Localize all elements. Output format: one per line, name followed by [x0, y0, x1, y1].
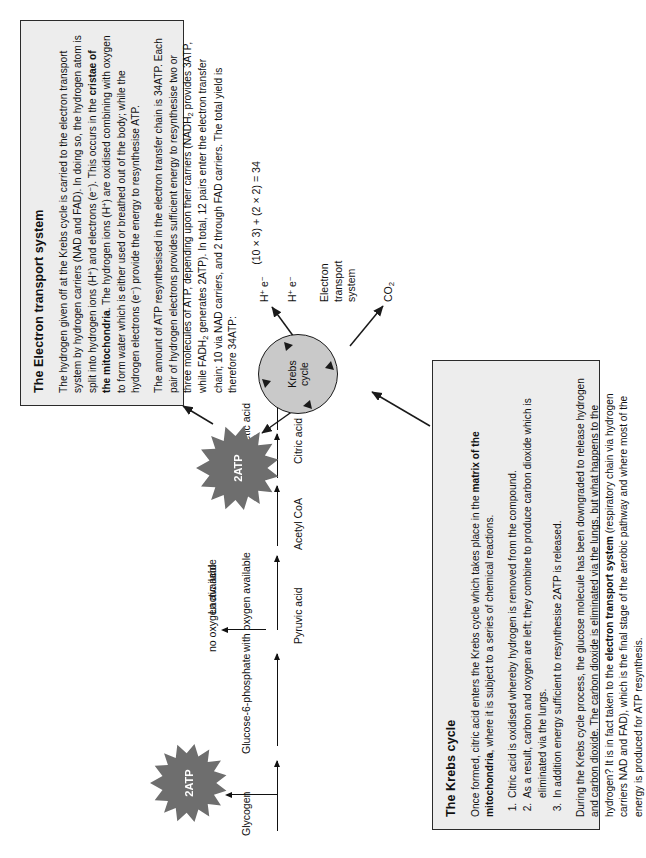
co2-text: CO — [382, 286, 394, 302]
ets-label-line-3: system — [345, 269, 357, 302]
arrow-g6p-to-atp — [232, 794, 277, 795]
ets-box-para2: The amount of ATP resynthesised in the e… — [152, 33, 241, 393]
krebs-cycle-node: Krebs cycle — [258, 334, 338, 414]
ets-p1-c: ) and electrons (e — [87, 192, 98, 271]
h-plus-text-2: H — [286, 294, 298, 302]
krebs-cycle-info-box: The Krebs cycle Once formed, citric acid… — [432, 360, 600, 830]
krebs-box-steps: Citric acid is oxidised whereby hydrogen… — [506, 373, 566, 817]
krebs-intro-c: , where it is subject to a series of che… — [484, 515, 495, 753]
ets-p2-sub1: 2 — [186, 112, 195, 116]
atp-star-glycolysis-label: 2ATP — [183, 769, 195, 796]
ets-p2-sub2: 2 — [201, 336, 210, 340]
ets-label-line-1: Electron — [318, 263, 330, 302]
co2-sub: 2 — [387, 282, 396, 286]
h-plus-sup-2: + — [286, 290, 295, 295]
krebs-intro-a: Once formed, citric acid enters the Kreb… — [470, 493, 481, 817]
label-citric-acid: Citric acid — [292, 418, 305, 464]
label-hydrogen-ions-electrons-2: H+ e− — [286, 277, 299, 302]
arrow-acetylcoa-to-oxaloacetic — [277, 486, 278, 546]
label-glycogen: Glycogen — [240, 792, 253, 836]
krebs-step-3: In addition energy sufficient to resynth… — [551, 373, 565, 800]
krebs-step-1: Citric acid is oxidised whereby hydrogen… — [506, 373, 520, 800]
krebs-box-title: The Krebs cycle — [443, 373, 461, 817]
ets-p1-sup4: − — [129, 290, 138, 294]
ets-p1-sup3: + — [100, 203, 109, 207]
ets-box-para1: The hydrogen given off at the Krebs cycl… — [57, 33, 144, 393]
krebs-para2-bold: electron transport system — [604, 536, 615, 661]
label-lactic-acid: Lactic acid — [206, 564, 219, 614]
arrow-oxaloacetic-to-citric — [277, 434, 278, 478]
label-carbon-dioxide: CO2 — [382, 282, 396, 302]
ets-p1-e: ). This occurs in the — [87, 96, 98, 188]
ets-p1-sup2: − — [86, 187, 95, 191]
ets-label-line-2: transport — [332, 261, 344, 302]
ets-p1-g: . The hydrogen ions (H — [102, 207, 113, 310]
atp-star-krebs-label: 2ATP — [232, 454, 244, 481]
atp-star-glycolysis: 2ATP — [150, 744, 228, 822]
ets-p1-k: ) provide the energy to resynthesise ATP… — [131, 105, 142, 290]
krebs-line-1: Krebs — [286, 360, 298, 387]
krebs-box-intro: Once formed, citric acid enters the Kreb… — [469, 373, 498, 817]
label-glucose-6-phosphate: Glucose-6-phosphate — [240, 654, 253, 754]
arrow-glycogen-to-g6p — [277, 761, 278, 831]
label-pyruvic-acid: Pyruvic acid — [292, 587, 305, 644]
e-minus-sup-2: − — [286, 277, 295, 282]
electron-transport-system-info-box: The Electron transport system The hydrog… — [20, 20, 184, 406]
ets-box-equation: (10 × 3) + (2 × 2) = 34 — [249, 33, 264, 393]
atp-star-krebs: 2ATP — [196, 426, 280, 510]
label-electron-transport-system: Electron transport system — [318, 261, 359, 302]
ets-p1-sup1: + — [86, 271, 95, 275]
krebs-cycle-node-label: Krebs cycle — [286, 360, 310, 387]
arrow-pyruvic-to-acetylcoa — [277, 556, 278, 630]
krebs-box-para2: During the Krebs cycle process, the gluc… — [574, 373, 646, 817]
e-minus-text-2: e — [286, 281, 298, 287]
ets-box-title: The Electron transport system — [31, 33, 49, 393]
krebs-line-2: cycle — [298, 362, 310, 386]
label-with-oxygen-available: with oxygen available — [240, 552, 253, 652]
label-acetyl-coa: Acetyl CoA — [292, 498, 305, 550]
arrow-g6p-to-pyruvic — [277, 654, 278, 746]
krebs-step-2: As a result, carbon and oxygen are left;… — [521, 373, 550, 800]
